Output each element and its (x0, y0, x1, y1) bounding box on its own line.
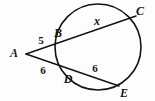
measure-label-bc: x (94, 15, 100, 27)
point-label-d: D (64, 73, 73, 85)
point-label-a: A (10, 47, 18, 59)
geometry-diagram-canvas (0, 0, 155, 101)
measure-label-ab: 5 (38, 35, 44, 46)
point-label-e: E (120, 87, 128, 99)
measure-label-de: 6 (92, 63, 98, 74)
point-label-b: B (54, 27, 62, 39)
geometry-figure: A B C D E 5 x 6 6 (0, 0, 155, 101)
point-label-c: C (136, 5, 144, 17)
measure-label-ad: 6 (40, 65, 46, 76)
